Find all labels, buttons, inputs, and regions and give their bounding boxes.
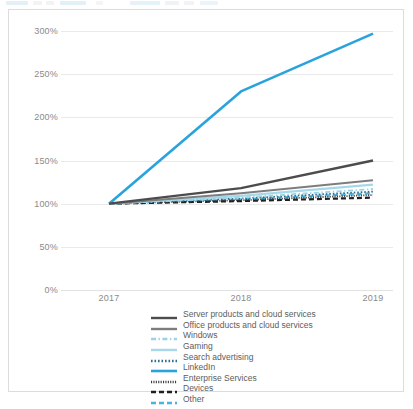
x-tick-label: 2017	[99, 293, 120, 303]
legend-item[interactable]: Gaming	[151, 341, 401, 352]
legend-swatch-icon	[151, 383, 177, 393]
legend-item-label: Windows	[183, 330, 217, 340]
series-line	[109, 34, 373, 204]
toolbar-item-1[interactable]	[6, 1, 28, 5]
series-lines	[61, 10, 393, 302]
legend-item[interactable]: Server products and cloud services	[151, 309, 401, 320]
y-tick-label: 300%	[22, 26, 58, 36]
legend-item-label: LinkedIn	[183, 362, 215, 372]
y-tick-label: 50%	[22, 242, 58, 252]
legend-item[interactable]: Enterprise Services	[151, 373, 401, 384]
toolbar-item-2[interactable]	[33, 1, 42, 5]
legend-swatch-icon	[151, 352, 177, 362]
legend-item[interactable]: Other	[151, 394, 401, 405]
legend-swatch-icon	[151, 330, 177, 340]
toolbar-item-6[interactable]	[130, 1, 160, 5]
legend-swatch-icon	[151, 362, 177, 372]
toolbar-item-9[interactable]	[200, 1, 218, 5]
y-axis: 0%50%100%150%200%250%300%	[14, 10, 58, 302]
legend-item-label: Search advertising	[183, 352, 253, 362]
chart-legend: Server products and cloud servicesOffice…	[151, 309, 401, 404]
legend-item[interactable]: Devices	[151, 383, 401, 394]
toolbar-item-4[interactable]	[60, 1, 86, 5]
legend-swatch-icon	[151, 373, 177, 383]
legend-item-label: Office products and cloud services	[183, 320, 313, 330]
toolbar-item-3[interactable]	[46, 1, 54, 5]
legend-item-label: Devices	[183, 383, 213, 393]
x-tick-label: 2019	[363, 293, 384, 303]
legend-item-label: Server products and cloud services	[183, 309, 316, 319]
legend-item-label: Other	[183, 394, 204, 404]
toolbar-item-8[interactable]	[184, 1, 194, 5]
chart-card: 0%50%100%150%200%250%300% 201720182019 S…	[8, 9, 404, 392]
toolbar-item-7[interactable]	[165, 1, 179, 5]
y-tick-label: 250%	[22, 69, 58, 79]
y-tick-label: 0%	[22, 285, 58, 295]
legend-item-label: Enterprise Services	[183, 373, 257, 383]
y-tick-label: 200%	[22, 112, 58, 122]
legend-swatch-icon	[151, 341, 177, 351]
y-tick-label: 100%	[22, 199, 58, 209]
series-line	[109, 161, 373, 204]
plot-area: 0%50%100%150%200%250%300%	[9, 10, 403, 302]
x-tick-label: 2018	[231, 293, 252, 303]
app-toolbar-strip[interactable]	[0, 0, 413, 7]
legend-item[interactable]: Office products and cloud services	[151, 320, 401, 331]
y-tick-label: 150%	[22, 156, 58, 166]
legend-swatch-icon	[151, 320, 177, 330]
legend-item[interactable]: LinkedIn	[151, 362, 401, 373]
legend-item-label: Gaming	[183, 341, 213, 351]
legend-swatch-icon	[151, 309, 177, 319]
legend-item[interactable]: Windows	[151, 330, 401, 341]
legend-swatch-icon	[151, 394, 177, 404]
toolbar-item-5[interactable]	[96, 1, 103, 5]
legend-item[interactable]: Search advertising	[151, 351, 401, 362]
